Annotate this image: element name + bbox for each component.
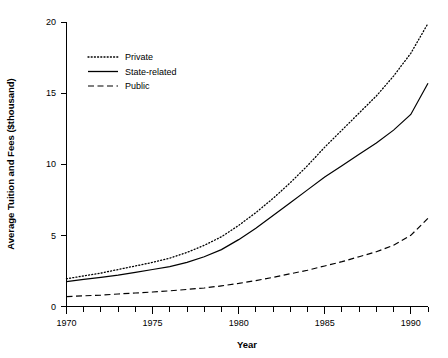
- chart-container: 05101520 19701975198019851990 PrivateSta…: [0, 0, 448, 358]
- x-axis-title: Year: [237, 339, 257, 350]
- series-group: [67, 23, 429, 296]
- x-tick-label-1975: 1975: [143, 318, 163, 328]
- line-chart: 05101520 19701975198019851990 PrivateSta…: [0, 0, 448, 358]
- chart-legend: PrivateState-relatedPublic: [88, 52, 177, 91]
- legend-label-state-related: State-related: [125, 67, 177, 77]
- legend-label-public: Public: [125, 81, 150, 91]
- y-tick-label-10: 10: [46, 159, 56, 169]
- y-axis-ticks: [61, 22, 67, 307]
- series-line-public: [67, 218, 429, 296]
- series-line-private: [67, 23, 429, 278]
- x-tick-label-1990: 1990: [401, 318, 421, 328]
- legend-label-private: Private: [125, 52, 153, 62]
- x-tick-label-1970: 1970: [56, 318, 76, 328]
- series-line-state-related: [67, 83, 429, 281]
- x-axis-minor-ticks: [84, 307, 428, 312]
- x-axis-tick-labels: 19701975198019851990: [56, 318, 420, 328]
- y-tick-label-0: 0: [51, 302, 56, 312]
- x-tick-label-1980: 1980: [229, 318, 249, 328]
- y-tick-label-20: 20: [46, 17, 56, 27]
- y-axis-tick-labels: 05101520: [46, 17, 56, 312]
- y-axis-title: Average Tuition and Fees ($thousand): [5, 78, 16, 250]
- x-tick-label-1985: 1985: [315, 318, 335, 328]
- y-tick-label-15: 15: [46, 88, 56, 98]
- y-tick-label-5: 5: [51, 231, 56, 241]
